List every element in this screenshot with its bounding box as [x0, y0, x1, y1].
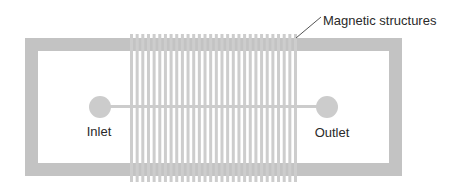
inlet-port	[89, 96, 111, 118]
callout-leader-line	[296, 17, 321, 38]
magnetic-structures-label: Magnetic structures	[323, 13, 437, 28]
inlet-label: Inlet	[87, 124, 112, 139]
outlet-label: Outlet	[315, 125, 350, 140]
chip-diagram-svg: Inlet Outlet Magnetic structures	[0, 0, 449, 187]
flow-channel	[100, 105, 327, 108]
outlet-port	[316, 96, 338, 118]
chip-diagram: Inlet Outlet Magnetic structures	[0, 0, 449, 187]
